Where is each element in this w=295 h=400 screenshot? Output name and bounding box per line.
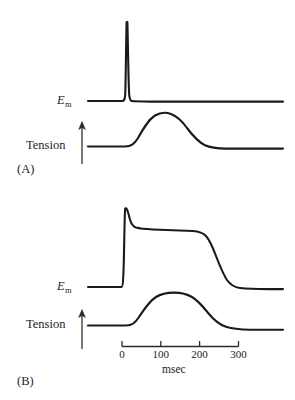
panel-b-tension-label: Tension	[26, 318, 65, 331]
panel-a-letter: (A)	[17, 163, 34, 176]
panel-b-tension-trace	[88, 293, 283, 330]
panel-a-tension-arrow-icon	[79, 122, 86, 165]
panel-b-letter: (B)	[17, 375, 34, 388]
axis-title: msec	[162, 364, 186, 376]
panel-a-tension-trace	[88, 113, 283, 149]
panel-b-em-label: Em	[57, 280, 71, 293]
panel-b-em-trace	[88, 208, 283, 289]
axis-tick-label-200: 200	[190, 349, 210, 360]
figure-container: Em Tension (A) Em Tension (B) 0 100 200 …	[0, 0, 295, 400]
panel-a-em-label: Em	[57, 94, 71, 107]
traces-svg	[0, 0, 295, 400]
panel-b-tension-arrow-icon	[79, 310, 86, 350]
axis-tick-label-0: 0	[112, 349, 132, 360]
axis-tick-label-300: 300	[229, 349, 249, 360]
axis-tick-label-100: 100	[151, 349, 171, 360]
time-axis	[122, 341, 239, 347]
panel-a-em-trace	[88, 22, 283, 102]
panel-a-tension-label: Tension	[26, 139, 65, 152]
